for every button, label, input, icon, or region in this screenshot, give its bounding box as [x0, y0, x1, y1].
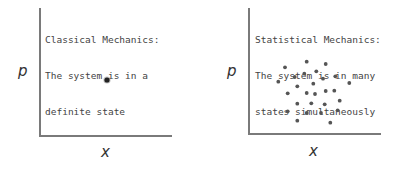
ensemble-point — [319, 111, 323, 115]
ensemble-point — [305, 91, 309, 95]
ensemble-point — [313, 92, 317, 96]
ensemble-point — [295, 119, 299, 123]
ensemble-point — [314, 69, 318, 73]
ensemble-point — [276, 80, 280, 84]
ensemble-point — [295, 84, 299, 88]
ensemble-point — [305, 60, 309, 64]
ensemble-point — [295, 102, 299, 106]
ensemble-point — [293, 75, 297, 79]
ensemble-point — [323, 102, 327, 106]
ensemble-point — [332, 89, 336, 93]
ensemble-point — [336, 108, 340, 112]
ensemble-point — [283, 65, 287, 69]
ensemble-point — [333, 74, 337, 78]
ensemble-point — [324, 62, 328, 66]
ensemble-point — [286, 91, 290, 95]
ensemble-point — [286, 109, 290, 113]
ensemble-point — [321, 77, 325, 81]
ensemble-point — [309, 101, 313, 105]
ensemble-point — [347, 81, 351, 85]
ensemble-point — [305, 111, 309, 115]
ensemble-point — [328, 121, 332, 125]
ensemble-point — [338, 99, 342, 103]
ensemble-point — [311, 82, 315, 86]
ensemble-point — [302, 72, 306, 76]
state-point — [104, 77, 109, 82]
scatter-dots — [0, 0, 402, 169]
ensemble-point — [324, 89, 328, 93]
